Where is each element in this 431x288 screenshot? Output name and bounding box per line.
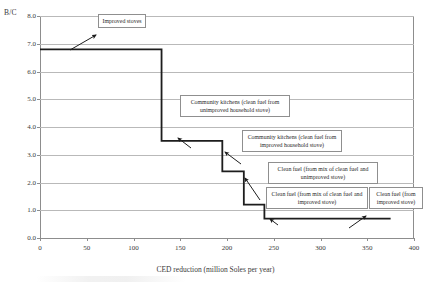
- annotation-community-kitchens-improved: Community kitchens (clean fuel from impr…: [242, 130, 342, 152]
- annotation-leader-lines: [0, 0, 431, 288]
- annotation-clean-fuel-improved: Clean fuel (from improved stove): [369, 187, 423, 209]
- annotation-clean-fuel-mix-unimproved: Clean fuel (from mix of clean fuel and u…: [268, 162, 378, 184]
- annotation-clean-fuel-mix-improved: Clean fuel (from mix of clean fuel and i…: [266, 187, 368, 209]
- annotation-community-kitchens-unimproved: Community kitchens (clean fuel from unim…: [180, 95, 290, 117]
- scan-artifact: [36, 276, 186, 282]
- chart-figure: B/C CED reduction (million Soles per yea…: [0, 0, 431, 288]
- annotation-improved-stoves: Improved stoves: [98, 14, 146, 28]
